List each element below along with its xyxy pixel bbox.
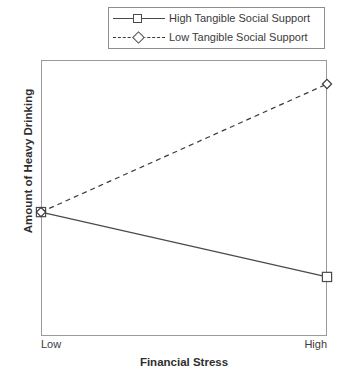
square-marker-icon bbox=[133, 14, 142, 23]
data-point-square-0-1 bbox=[322, 272, 331, 281]
chart-figure: High Tangible Social Support Low Tangibl… bbox=[0, 0, 341, 375]
legend-key-solid-square bbox=[113, 11, 165, 27]
series-line-1 bbox=[41, 84, 327, 212]
data-point-diamond-1-1 bbox=[322, 79, 331, 88]
y-axis-label: Amount of Heavy Drinking bbox=[22, 71, 34, 251]
series-line-0 bbox=[41, 212, 327, 277]
x-axis-label: Financial Stress bbox=[41, 356, 327, 368]
chart-legend: High Tangible Social Support Low Tangibl… bbox=[108, 7, 325, 49]
diamond-marker-icon bbox=[132, 31, 145, 44]
plot-series-layer bbox=[41, 60, 327, 336]
x-tick-label-low: Low bbox=[41, 338, 61, 350]
legend-label-low: Low Tangible Social Support bbox=[165, 31, 308, 44]
legend-entry-high-tangible-social-support: High Tangible Social Support bbox=[113, 9, 320, 28]
legend-key-dashed-diamond bbox=[113, 30, 165, 46]
legend-entry-low-tangible-social-support: Low Tangible Social Support bbox=[113, 28, 320, 47]
legend-label-high: High Tangible Social Support bbox=[165, 12, 310, 25]
x-tick-label-high: High bbox=[247, 338, 327, 350]
